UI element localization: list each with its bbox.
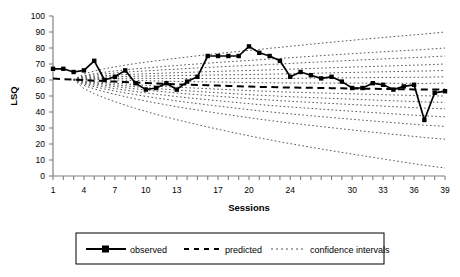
- legend-label-confidence-intervals: confidence intervals: [310, 245, 390, 255]
- observed-data-point: [82, 68, 86, 72]
- y-tick-label: 10: [36, 155, 46, 165]
- observed-data-point: [309, 73, 313, 77]
- x-tick-label: 24: [286, 185, 296, 195]
- observed-data-point: [329, 75, 333, 79]
- observed-data-point: [164, 81, 168, 85]
- observed-data-point: [267, 54, 271, 58]
- observed-data-point: [422, 118, 426, 122]
- observed-data-point: [298, 70, 302, 74]
- y-tick-label: 0: [40, 171, 45, 181]
- observed-data-point: [92, 59, 96, 63]
- y-tick-label: 20: [36, 139, 46, 149]
- observed-data-point: [216, 54, 220, 58]
- y-tick-label: 30: [36, 123, 46, 133]
- y-tick-label: 80: [36, 43, 46, 53]
- observed-data-point: [381, 83, 385, 87]
- x-tick-label: 13: [172, 185, 182, 195]
- observed-data-point: [113, 75, 117, 79]
- x-tick-label: 33: [378, 185, 388, 195]
- x-tick-label: 4: [82, 185, 87, 195]
- observed-data-point: [402, 84, 406, 88]
- observed-data-point: [236, 54, 240, 58]
- observed-data-point: [432, 91, 436, 95]
- observed-data-point: [154, 86, 158, 90]
- observed-data-point: [185, 79, 189, 83]
- observed-data-point: [350, 86, 354, 90]
- observed-data-point: [319, 76, 323, 80]
- observed-data-point: [123, 68, 127, 72]
- y-tick-label: 60: [36, 75, 46, 85]
- y-axis-title: LSQ: [8, 86, 19, 106]
- observed-data-point: [340, 79, 344, 83]
- legend-label-predicted: predicted: [225, 245, 262, 255]
- observed-data-point: [206, 54, 210, 58]
- x-tick-label: 39: [440, 185, 450, 195]
- x-tick-label: 7: [113, 185, 118, 195]
- y-tick-label: 90: [36, 27, 46, 37]
- observed-data-point: [247, 44, 251, 48]
- lsq-sessions-line-chart: 0102030405060708090100 14710131720243033…: [0, 0, 460, 277]
- x-axis-title: Sessions: [228, 202, 270, 213]
- observed-data-point: [360, 86, 364, 90]
- observed-data-point: [51, 67, 55, 71]
- observed-data-point: [61, 67, 65, 71]
- observed-data-point: [412, 83, 416, 87]
- observed-data-point: [278, 59, 282, 63]
- observed-data-point: [71, 70, 75, 74]
- legend-label-observed: observed: [130, 245, 167, 255]
- x-tick-label: 1: [51, 185, 56, 195]
- legend-swatch-observed-marker: [102, 246, 109, 253]
- chart-container: 0102030405060708090100 14710131720243033…: [0, 0, 460, 277]
- y-tick-label: 50: [36, 91, 46, 101]
- observed-data-point: [288, 75, 292, 79]
- observed-data-point: [443, 89, 447, 93]
- y-tick-label: 100: [31, 11, 45, 21]
- observed-data-point: [371, 81, 375, 85]
- observed-data-point: [226, 54, 230, 58]
- y-tick-label: 70: [36, 59, 46, 69]
- observed-data-point: [144, 87, 148, 91]
- x-tick-label: 17: [213, 185, 223, 195]
- x-tick-label: 10: [141, 185, 151, 195]
- chart-legend: observed predicted confidence intervals: [76, 233, 390, 264]
- x-tick-label: 36: [409, 185, 419, 195]
- observed-data-point: [175, 87, 179, 91]
- x-tick-label: 20: [244, 185, 254, 195]
- x-tick-label: 30: [347, 185, 357, 195]
- observed-data-point: [195, 75, 199, 79]
- observed-data-point: [391, 87, 395, 91]
- observed-data-point: [257, 51, 261, 55]
- observed-data-point: [102, 78, 106, 82]
- y-tick-label: 40: [36, 107, 46, 117]
- observed-data-point: [133, 81, 137, 85]
